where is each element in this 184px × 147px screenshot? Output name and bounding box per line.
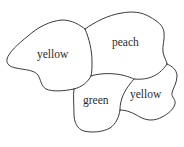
boundary-left-green bbox=[74, 76, 91, 89]
region-label-right-yellow: yellow bbox=[130, 88, 162, 101]
map-coloring-diagram: yellow peach green yellow bbox=[0, 0, 184, 147]
boundary-peach-bottom bbox=[91, 64, 167, 79]
region-label-green: green bbox=[83, 94, 109, 107]
region-label-left: yellow bbox=[37, 48, 69, 61]
boundary-left-peach bbox=[85, 29, 92, 76]
region-label-peach: peach bbox=[112, 36, 139, 49]
map-svg: yellow peach green yellow bbox=[0, 0, 184, 147]
